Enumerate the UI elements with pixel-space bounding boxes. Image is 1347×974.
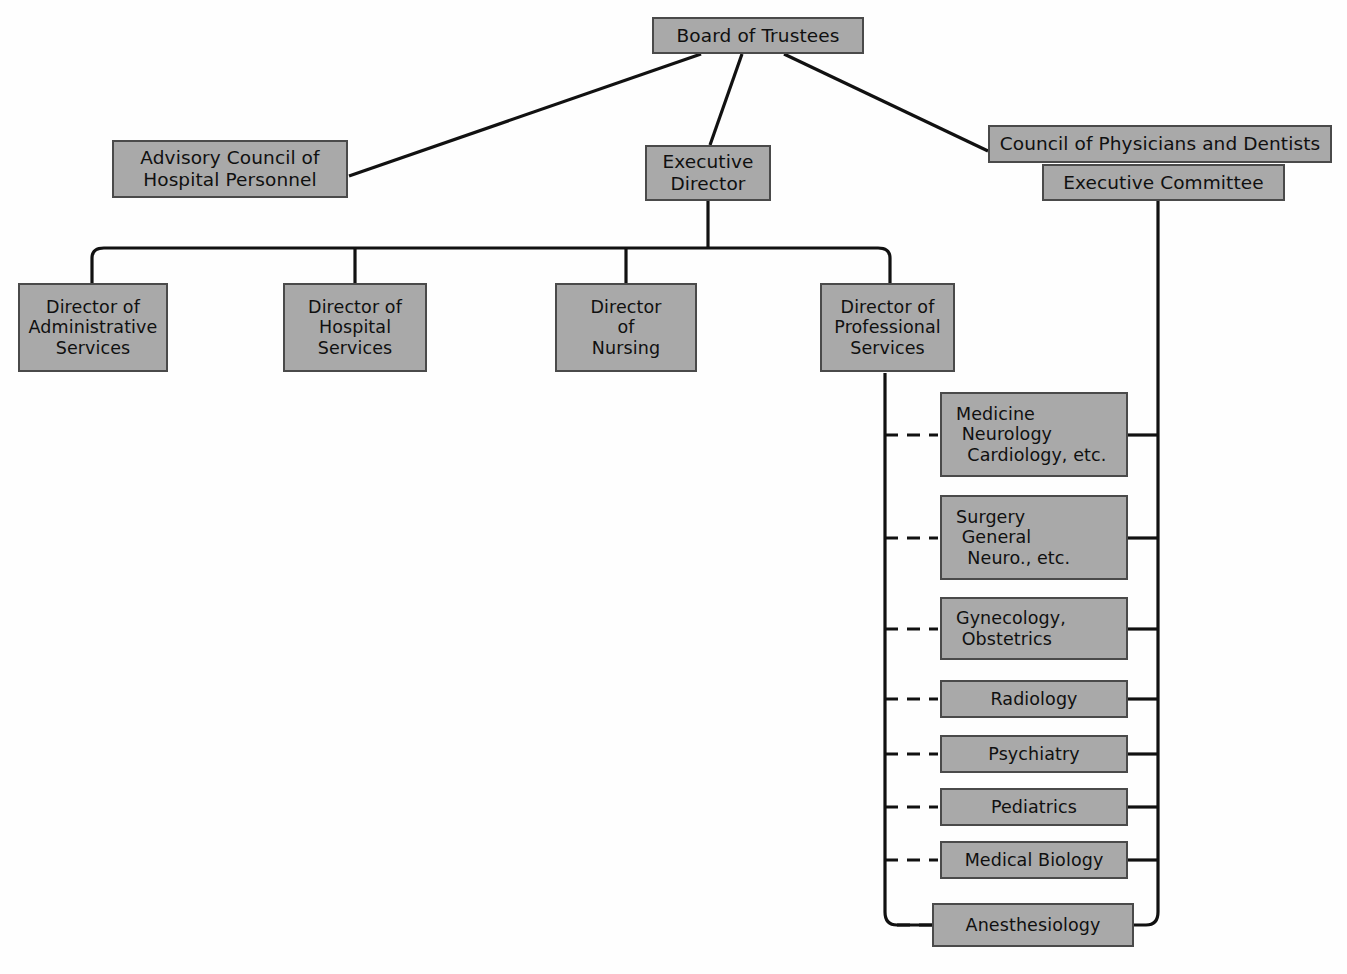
- node-department-pediatrics[interactable]: Pediatrics: [940, 788, 1128, 826]
- board-of-trustees-label: Board of Trustees: [677, 25, 840, 47]
- department-surgery-label: Surgery General Neuro., etc.: [942, 507, 1126, 569]
- director-professional-label: Director ofProfessionalServices: [834, 297, 940, 359]
- node-advisory-council[interactable]: Advisory Council ofHospital Personnel: [112, 140, 348, 198]
- department-medical-biology-label: Medical Biology: [965, 850, 1104, 871]
- node-council-of-physicians-and-dentists[interactable]: Council of Physicians and Dentists: [988, 125, 1332, 163]
- node-department-medical-biology[interactable]: Medical Biology: [940, 841, 1128, 879]
- director-hospital-label: Director ofHospitalServices: [308, 297, 402, 359]
- node-director-of-administrative-services[interactable]: Director ofAdministrativeServices: [18, 283, 168, 372]
- department-radiology-label: Radiology: [990, 689, 1077, 710]
- node-department-psychiatry[interactable]: Psychiatry: [940, 735, 1128, 773]
- node-department-anesthesiology[interactable]: Anesthesiology: [932, 903, 1134, 947]
- dashed-department-connectors: [885, 435, 938, 925]
- department-anesthesiology-label: Anesthesiology: [966, 915, 1101, 936]
- department-pediatrics-label: Pediatrics: [991, 797, 1077, 818]
- node-executive-director[interactable]: ExecutiveDirector: [645, 145, 771, 201]
- advisory-council-label: Advisory Council ofHospital Personnel: [140, 147, 319, 191]
- executive-committee-label: Executive Committee: [1063, 172, 1264, 194]
- node-director-of-hospital-services[interactable]: Director ofHospitalServices: [283, 283, 427, 372]
- node-department-surgery[interactable]: Surgery General Neuro., etc.: [940, 495, 1128, 580]
- department-psychiatry-label: Psychiatry: [988, 744, 1079, 765]
- link-dirprof-spine: [885, 373, 932, 925]
- department-gynecology-label: Gynecology, Obstetrics: [942, 608, 1126, 649]
- department-medicine-label: Medicine Neurology Cardiology, etc.: [942, 404, 1126, 466]
- node-director-of-professional-services[interactable]: Director ofProfessionalServices: [820, 283, 955, 372]
- node-department-medicine[interactable]: Medicine Neurology Cardiology, etc.: [940, 392, 1128, 477]
- link-committee-spine: [1134, 201, 1158, 925]
- link-board-execdirector: [710, 54, 742, 145]
- director-administrative-label: Director ofAdministrativeServices: [29, 297, 158, 359]
- node-executive-committee[interactable]: Executive Committee: [1042, 164, 1285, 201]
- node-department-gynecology-obstetrics[interactable]: Gynecology, Obstetrics: [940, 597, 1128, 660]
- org-chart-canvas: Board of Trustees Advisory Council ofHos…: [0, 0, 1347, 974]
- link-board-council: [784, 54, 988, 151]
- executive-director-label: ExecutiveDirector: [663, 151, 754, 195]
- director-nursing-label: DirectorofNursing: [590, 297, 661, 359]
- node-board-of-trustees[interactable]: Board of Trustees: [652, 17, 864, 54]
- council-of-physicians-label: Council of Physicians and Dentists: [1000, 133, 1321, 155]
- node-department-radiology[interactable]: Radiology: [940, 680, 1128, 718]
- node-director-of-nursing[interactable]: DirectorofNursing: [555, 283, 697, 372]
- director-bus: [92, 248, 890, 286]
